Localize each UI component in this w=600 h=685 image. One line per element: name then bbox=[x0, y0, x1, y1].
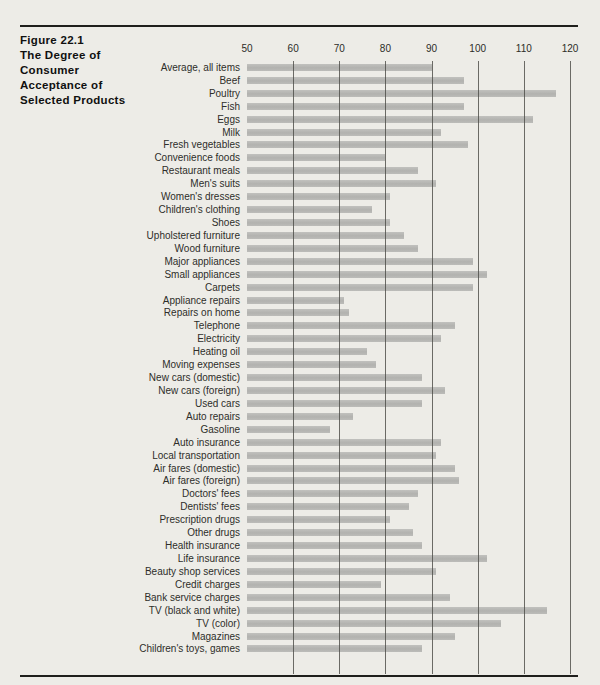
bar bbox=[247, 465, 455, 472]
bar bbox=[247, 258, 473, 265]
chart-row: Health insurance bbox=[0, 539, 600, 552]
bar bbox=[247, 129, 441, 136]
category-label: Life insurance bbox=[0, 552, 240, 565]
chart-row: Other drugs bbox=[0, 526, 600, 539]
chart-row: Carpets bbox=[0, 281, 600, 294]
category-label: Air fares (foreign) bbox=[0, 475, 240, 488]
chart-row: Air fares (domestic) bbox=[0, 462, 600, 475]
bar bbox=[247, 542, 422, 549]
chart-row: Life insurance bbox=[0, 552, 600, 565]
chart-row: Shoes bbox=[0, 216, 600, 229]
chart-row: Men's suits bbox=[0, 177, 600, 190]
bar bbox=[247, 116, 533, 123]
bar bbox=[247, 297, 344, 304]
chart-row: Women's dresses bbox=[0, 190, 600, 203]
bar bbox=[247, 633, 455, 640]
category-label: Appliance repairs bbox=[0, 294, 240, 307]
category-label: Beauty shop services bbox=[0, 565, 240, 578]
bar bbox=[247, 232, 404, 239]
category-label: Local transportation bbox=[0, 449, 240, 462]
chart-row: Auto insurance bbox=[0, 436, 600, 449]
chart-row: Moving expenses bbox=[0, 358, 600, 371]
category-label: Dentists' fees bbox=[0, 500, 240, 513]
chart-row: Appliance repairs bbox=[0, 294, 600, 307]
category-label: TV (black and white) bbox=[0, 604, 240, 617]
bar bbox=[247, 361, 376, 368]
category-label: Eggs bbox=[0, 113, 240, 126]
category-label: Carpets bbox=[0, 281, 240, 294]
category-label: Repairs on home bbox=[0, 307, 240, 320]
chart-row: Air fares (foreign) bbox=[0, 475, 600, 488]
bar bbox=[247, 309, 349, 316]
chart-row: Milk bbox=[0, 126, 600, 139]
chart-row: Dentists' fees bbox=[0, 500, 600, 513]
chart-row: Poultry bbox=[0, 87, 600, 100]
chart-row: Doctors' fees bbox=[0, 487, 600, 500]
category-label: Magazines bbox=[0, 630, 240, 643]
category-label: Shoes bbox=[0, 216, 240, 229]
bar bbox=[247, 400, 422, 407]
category-label: Bank service charges bbox=[0, 591, 240, 604]
chart-row: Children's clothing bbox=[0, 203, 600, 216]
chart-row: Major appliances bbox=[0, 255, 600, 268]
category-label: Fresh vegetables bbox=[0, 139, 240, 152]
x-tick-label: 100 bbox=[461, 43, 495, 54]
category-label: Doctors' fees bbox=[0, 487, 240, 500]
category-label: Small appliances bbox=[0, 268, 240, 281]
bar bbox=[247, 154, 385, 161]
bar bbox=[247, 387, 445, 394]
x-tick-label: 70 bbox=[322, 43, 356, 54]
category-label: TV (color) bbox=[0, 617, 240, 630]
bar bbox=[247, 374, 422, 381]
bar bbox=[247, 607, 547, 614]
chart-row: TV (black and white) bbox=[0, 604, 600, 617]
chart-row: New cars (domestic) bbox=[0, 371, 600, 384]
chart-row: Prescription drugs bbox=[0, 513, 600, 526]
category-label: Telephone bbox=[0, 319, 240, 332]
category-label: Moving expenses bbox=[0, 358, 240, 371]
bar bbox=[247, 581, 381, 588]
bar bbox=[247, 594, 450, 601]
bar bbox=[247, 620, 501, 627]
chart-row: Beauty shop services bbox=[0, 565, 600, 578]
bar bbox=[247, 516, 390, 523]
bar bbox=[247, 439, 441, 446]
category-label: Other drugs bbox=[0, 526, 240, 539]
x-tick-label: 110 bbox=[507, 43, 541, 54]
chart-row: Fresh vegetables bbox=[0, 139, 600, 152]
chart-row: Telephone bbox=[0, 319, 600, 332]
bar bbox=[247, 64, 432, 71]
chart-row: Small appliances bbox=[0, 268, 600, 281]
bar bbox=[247, 167, 418, 174]
bar bbox=[247, 503, 409, 510]
chart-row: Restaurant meals bbox=[0, 164, 600, 177]
bar bbox=[247, 413, 353, 420]
chart-row: Bank service charges bbox=[0, 591, 600, 604]
category-label: Children's clothing bbox=[0, 203, 240, 216]
x-tick-label: 120 bbox=[553, 43, 587, 54]
bar bbox=[247, 90, 556, 97]
category-label: Auto repairs bbox=[0, 410, 240, 423]
chart-row: Eggs bbox=[0, 113, 600, 126]
category-label: Children's toys, games bbox=[0, 642, 240, 655]
x-tick-label: 80 bbox=[368, 43, 402, 54]
bar bbox=[247, 322, 455, 329]
x-tick-label: 90 bbox=[415, 43, 449, 54]
category-label: Gasoline bbox=[0, 423, 240, 436]
chart-row: Auto repairs bbox=[0, 410, 600, 423]
category-label: Used cars bbox=[0, 397, 240, 410]
x-axis-tick-labels: 5060708090100110120 bbox=[0, 43, 600, 56]
bar bbox=[247, 477, 459, 484]
chart-row: Average, all items bbox=[0, 61, 600, 74]
chart-row: Electricity bbox=[0, 332, 600, 345]
chart-row: TV (color) bbox=[0, 617, 600, 630]
category-label: Auto insurance bbox=[0, 436, 240, 449]
chart-row: Upholstered furniture bbox=[0, 229, 600, 242]
category-label: Men's suits bbox=[0, 177, 240, 190]
bar bbox=[247, 645, 422, 652]
category-label: Heating oil bbox=[0, 345, 240, 358]
category-label: Beef bbox=[0, 74, 240, 87]
category-label: Restaurant meals bbox=[0, 164, 240, 177]
chart-row: Credit charges bbox=[0, 578, 600, 591]
bar bbox=[247, 141, 468, 148]
